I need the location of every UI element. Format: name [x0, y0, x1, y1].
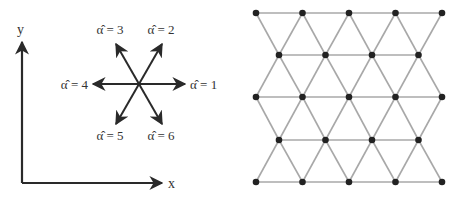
lattice-node — [392, 179, 399, 186]
direction-label-6: α̂ = 6 — [147, 128, 175, 143]
direction-label-5: α̂ = 5 — [96, 128, 123, 143]
lattice-node — [346, 10, 353, 17]
lattice-node — [276, 137, 283, 144]
direction-arrow-2 — [139, 44, 162, 84]
lattice-edge — [256, 140, 279, 182]
lattice-node — [369, 52, 376, 59]
lattice-edge — [419, 97, 443, 140]
lattice-node — [299, 179, 306, 186]
lattice-edge — [396, 55, 419, 97]
lattice-node — [392, 10, 399, 17]
lattice-edge — [419, 13, 443, 55]
lattice-edge — [279, 97, 303, 140]
lattice-edge — [349, 140, 372, 182]
lattice-edge — [372, 55, 396, 97]
lattice-edge — [419, 55, 443, 97]
lattice-edge — [326, 55, 350, 97]
direction-label-3: α̂ = 3 — [96, 22, 123, 37]
lattice-node — [346, 94, 353, 101]
direction-arrow-6 — [139, 84, 162, 124]
lattice-edge — [349, 55, 372, 97]
lattice-edge — [279, 55, 303, 97]
lattice-edge — [396, 13, 419, 55]
figure-canvas: x y α̂ = 1α̂ = 2α̂ = 3α̂ = 4α̂ = 5α̂ = 6 — [0, 0, 462, 201]
lattice-edge — [372, 13, 396, 55]
y-axis-label: y — [17, 22, 24, 37]
direction-label-2: α̂ = 2 — [147, 22, 174, 37]
lattice-node — [439, 179, 446, 186]
lattice-node — [253, 179, 260, 186]
lattice-edge — [256, 97, 279, 140]
lattice-edge — [349, 13, 372, 55]
lattice-node — [415, 52, 422, 59]
direction-label-1: α̂ = 1 — [190, 77, 217, 92]
lattice-edge — [372, 97, 396, 140]
lattice-edge — [303, 13, 326, 55]
lattice-node — [369, 137, 376, 144]
x-axis-label: x — [168, 176, 175, 191]
lattice-node — [346, 179, 353, 186]
lattice-node — [322, 137, 329, 144]
direction-arrow-5 — [116, 84, 139, 124]
lattice-edge — [326, 13, 350, 55]
lattice-node — [253, 94, 260, 101]
lattice-edge — [396, 97, 419, 140]
direction-label-4: α̂ = 4 — [61, 77, 89, 92]
lattice-node — [322, 52, 329, 59]
lattice-edge — [372, 140, 396, 182]
lattice-edge — [396, 140, 419, 182]
lattice-edge — [326, 140, 350, 182]
direction-star: α̂ = 1α̂ = 2α̂ = 3α̂ = 4α̂ = 5α̂ = 6 — [61, 22, 217, 143]
lattice-edge — [303, 55, 326, 97]
lattice-edge — [279, 140, 303, 182]
lattice-edge — [256, 13, 279, 55]
lattice-edge — [303, 97, 326, 140]
lattice-edge — [303, 140, 326, 182]
lattice-edge — [279, 13, 303, 55]
lattice-edge — [326, 97, 350, 140]
lattice-node — [392, 94, 399, 101]
direction-arrow-3 — [116, 44, 139, 84]
lattice-node — [439, 94, 446, 101]
lattice-node — [439, 10, 446, 17]
lattice-node — [276, 52, 283, 59]
lattice-edge — [256, 55, 279, 97]
lattice-node — [299, 94, 306, 101]
triangular-lattice — [253, 10, 446, 186]
lattice-node — [415, 137, 422, 144]
lattice-node — [299, 10, 306, 17]
lattice-edge — [349, 97, 372, 140]
lattice-edge — [419, 140, 443, 182]
lattice-node — [253, 10, 260, 17]
